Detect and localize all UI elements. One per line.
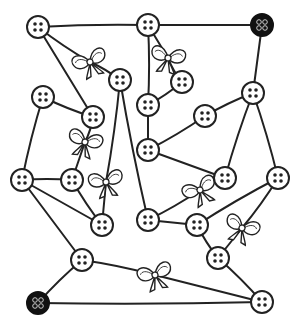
button-node[interactable] [61, 169, 83, 191]
button-node[interactable] [82, 106, 104, 128]
bow-center-icon [103, 179, 110, 186]
string-line [38, 302, 262, 304]
button-node[interactable] [194, 105, 216, 127]
button-node[interactable] [207, 247, 229, 269]
button-node[interactable] [32, 86, 54, 108]
bow-knot[interactable] [221, 213, 262, 248]
bow-center-icon [81, 138, 88, 145]
dark-button-node[interactable] [251, 14, 273, 36]
string-line [148, 150, 225, 178]
string-line [38, 25, 148, 27]
button-node[interactable] [27, 16, 49, 38]
bow-knot[interactable] [65, 128, 104, 161]
bow-center-icon [151, 271, 158, 278]
string-line [106, 80, 120, 182]
button-node[interactable] [251, 291, 273, 313]
button-node[interactable] [137, 209, 159, 231]
button-node[interactable] [137, 94, 159, 116]
string-line [22, 180, 82, 260]
bow-knot[interactable] [87, 169, 125, 200]
button-node[interactable] [71, 249, 93, 271]
button-node[interactable] [137, 139, 159, 161]
button-node[interactable] [214, 167, 236, 189]
string-line [148, 25, 149, 105]
strings-layer [22, 25, 278, 304]
button-node[interactable] [109, 69, 131, 91]
string-line [22, 180, 102, 225]
string-line [253, 93, 278, 178]
dark-button-node[interactable] [27, 292, 49, 314]
button-node[interactable] [137, 14, 159, 36]
string-line [155, 275, 262, 302]
string-line [225, 93, 253, 178]
button-node[interactable] [186, 214, 208, 236]
bow-knot[interactable] [70, 47, 111, 82]
button-node[interactable] [242, 82, 264, 104]
button-node[interactable] [11, 169, 33, 191]
bow-center-icon [165, 55, 172, 62]
string-line [22, 97, 43, 180]
button-node[interactable] [171, 71, 193, 93]
puzzle-board [0, 0, 302, 326]
button-node[interactable] [267, 167, 289, 189]
bow-knot[interactable] [136, 261, 175, 294]
button-node[interactable] [91, 214, 113, 236]
